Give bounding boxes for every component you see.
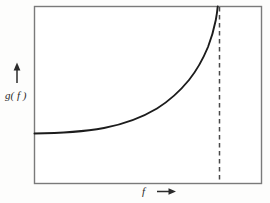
arrow-right-icon <box>157 188 176 194</box>
x-axis-label: f <box>142 186 145 197</box>
figure-container: g( f ) f <box>0 0 270 203</box>
y-axis-label: g( f ) <box>5 90 26 101</box>
plot-frame <box>35 7 262 184</box>
plot-area <box>0 0 270 203</box>
arrow-up-icon <box>14 63 21 84</box>
